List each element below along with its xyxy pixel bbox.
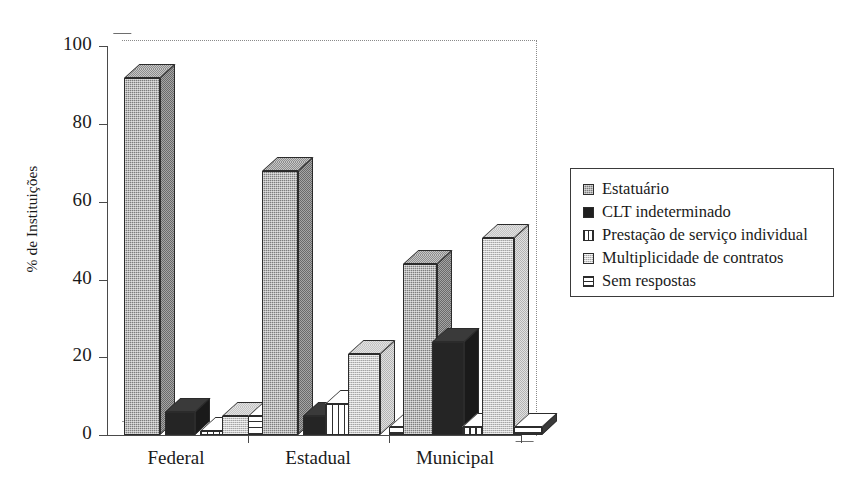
y-axis-tick bbox=[99, 435, 107, 436]
legend-label: Estatuário bbox=[602, 181, 669, 198]
x-axis-tick bbox=[389, 435, 390, 443]
bar-front-face bbox=[124, 78, 160, 435]
y-axis-tick-label: 100 bbox=[44, 33, 92, 55]
legend-item-clt-indeterminado[interactable]: CLT indeterminado bbox=[583, 201, 823, 224]
x-axis-tick-label-municipal: Municipal bbox=[385, 447, 525, 469]
bar-front-face bbox=[222, 416, 250, 435]
legend-swatch-multiplicidade-icon bbox=[583, 253, 594, 264]
bar-federal-clt bbox=[165, 412, 195, 435]
y-axis-tick bbox=[99, 357, 107, 358]
x-axis-tick-label-federal: Federal bbox=[106, 447, 246, 469]
x-axis-tick-label-estadual: Estadual bbox=[248, 447, 388, 469]
y-axis-tick-label: 0 bbox=[44, 422, 92, 444]
y-axis-tick-label: 40 bbox=[44, 267, 92, 289]
x-axis-tick bbox=[248, 435, 249, 443]
bar-front-face bbox=[514, 427, 542, 435]
y-axis-tick-label: 60 bbox=[44, 189, 92, 211]
y-axis-tick-label: 20 bbox=[44, 344, 92, 366]
y-axis-tick bbox=[99, 46, 107, 47]
y-axis-tick bbox=[99, 124, 107, 125]
legend-label: CLT indeterminado bbox=[602, 204, 731, 221]
bar-front-face bbox=[432, 342, 464, 435]
legend-swatch-sem-respostas-icon bbox=[583, 276, 594, 287]
bar-federal-multiplicidade bbox=[222, 416, 250, 435]
bar-estadual-estatuario bbox=[262, 171, 298, 435]
bar-side-face bbox=[514, 224, 529, 435]
bar-municipal-sem-respostas bbox=[514, 427, 542, 435]
bar-municipal-clt bbox=[432, 342, 464, 435]
legend-label: Prestação de serviço individual bbox=[602, 227, 808, 244]
bar-chart: % de Instituições 100 80 60 40 20 0 Fede… bbox=[0, 0, 861, 497]
legend-item-multiplicidade-contratos[interactable]: Multiplicidade de contratos bbox=[583, 247, 823, 270]
bar-estadual-multiplicidade bbox=[348, 354, 380, 435]
bar-municipal-multiplicidade bbox=[482, 238, 514, 435]
y-axis-tick-label: 80 bbox=[44, 111, 92, 133]
legend-swatch-clt-indeterminado-icon bbox=[583, 207, 594, 218]
legend-item-sem-respostas[interactable]: Sem respostas bbox=[583, 270, 823, 293]
bar-estadual-prestacao bbox=[325, 404, 349, 435]
legend-swatch-prestacao-servico-icon bbox=[583, 230, 594, 241]
bar-front-face bbox=[262, 171, 298, 435]
y-axis-tick bbox=[99, 202, 107, 203]
bar-front-face bbox=[325, 404, 349, 435]
y-axis-line bbox=[107, 46, 108, 435]
x-axis-tick bbox=[521, 435, 522, 443]
legend-label: Sem respostas bbox=[602, 273, 696, 290]
bar-front-face bbox=[482, 238, 514, 435]
legend-label: Multiplicidade de contratos bbox=[602, 250, 783, 267]
x-axis-line bbox=[107, 435, 522, 436]
bar-side-face bbox=[298, 157, 313, 435]
legend-swatch-estatuario-icon bbox=[583, 184, 594, 195]
legend-item-estatuario[interactable]: Estatuário bbox=[583, 178, 823, 201]
legend-item-prestacao-servico-individual[interactable]: Prestação de serviço individual bbox=[583, 224, 823, 247]
y-axis-tick bbox=[99, 280, 107, 281]
bar-municipal-prestacao bbox=[462, 427, 484, 435]
y-axis-title: % de Instituições bbox=[23, 124, 41, 314]
bar-federal-estatuario bbox=[124, 78, 160, 435]
bar-side-face bbox=[380, 340, 395, 435]
chart-legend: Estatuário CLT indeterminado Prestação d… bbox=[570, 168, 834, 297]
bar-front-face bbox=[165, 412, 195, 435]
bar-front-face bbox=[348, 354, 380, 435]
bar-side-face bbox=[160, 64, 175, 435]
bar-front-face bbox=[462, 427, 484, 435]
